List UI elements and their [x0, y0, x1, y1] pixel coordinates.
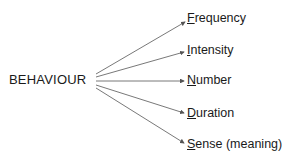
branch-initial: N — [187, 73, 196, 87]
branch-frequency: Frequency — [187, 11, 246, 25]
branch-duration: Duration — [187, 106, 234, 120]
branch-sense: Sense (meaning) — [187, 137, 282, 151]
arrow-sense — [96, 88, 184, 143]
branch-rest: requency — [195, 11, 246, 25]
branch-rest: ense (meaning) — [195, 137, 282, 151]
branch-initial: D — [187, 106, 196, 120]
branch-rest: uration — [196, 106, 234, 120]
arrow-frequency — [96, 22, 185, 74]
branch-rest: ntensity — [190, 43, 233, 57]
branch-rest: umber — [196, 73, 231, 87]
root-label-behaviour: BEHAVIOUR — [9, 72, 86, 87]
branch-intensity: Intensity — [187, 43, 234, 57]
arrow-intensity — [96, 52, 184, 77]
arrow-duration — [96, 85, 184, 113]
branch-number: Number — [187, 73, 231, 87]
branch-initial: F — [187, 11, 195, 25]
